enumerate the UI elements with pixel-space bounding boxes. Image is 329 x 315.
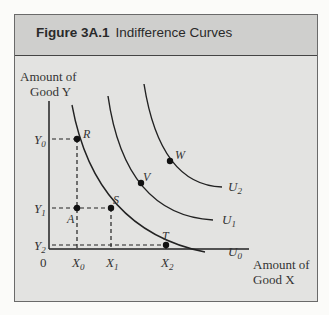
curve-u0: [72, 105, 205, 252]
curve-u1: [108, 96, 213, 220]
tick-y0: Y0: [34, 132, 46, 149]
tick-x2: X2: [160, 255, 174, 272]
label-w: W: [175, 148, 186, 162]
tick-y2: Y2: [34, 238, 46, 255]
indifference-chart: Amount of Good Y Amount of Good X 0 Y0 Y…: [0, 0, 329, 315]
tick-y1: Y1: [34, 201, 46, 218]
y-axis-label-2: Good Y: [30, 84, 72, 99]
x-axis-label-2: Good X: [253, 272, 295, 287]
point-r: [74, 136, 80, 142]
label-v: V: [143, 170, 152, 184]
point-w: [167, 158, 173, 164]
label-a: A: [66, 212, 75, 226]
label-u2: U2: [228, 179, 242, 196]
curve-u2: [144, 84, 222, 187]
label-s: S: [113, 193, 119, 207]
x-axis-label-1: Amount of: [253, 257, 310, 272]
point-a: [74, 205, 80, 211]
label-r: R: [82, 127, 91, 141]
label-u1: U1: [222, 212, 236, 229]
tick-x1: X1: [105, 255, 118, 272]
label-u0: U0: [228, 244, 242, 261]
y-axis-label-1: Amount of: [20, 69, 77, 84]
origin-label: 0: [40, 255, 47, 270]
tick-x0: X0: [71, 255, 85, 272]
